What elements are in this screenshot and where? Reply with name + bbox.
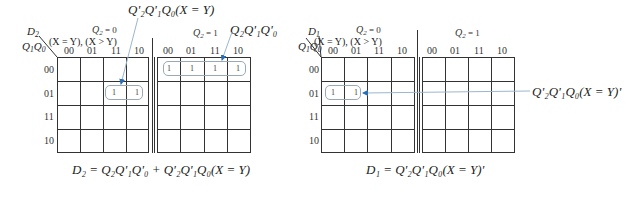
- col-header: 10: [397, 45, 407, 56]
- row-header: 10: [309, 135, 319, 146]
- col-header: 11: [210, 45, 220, 56]
- col-header: 01: [87, 45, 97, 56]
- annotation-q2n-q1n-q0-xeqy-not: Q'₂Q'₁Q₀(X = Y)': [532, 84, 621, 100]
- equation-d2: D₂ = Q₂Q'₁Q'₀ + Q'₂Q'₁Q₀(X = Y): [72, 162, 250, 178]
- col-header: 01: [351, 45, 361, 56]
- col-header: 11: [374, 45, 384, 56]
- row-header: 10: [44, 135, 54, 146]
- section-divider: [419, 57, 420, 153]
- col-header: 01: [186, 45, 196, 56]
- section-divider: [154, 57, 155, 153]
- row-header: 01: [44, 88, 54, 99]
- equation-d1: D₁ = Q'₂Q'₁Q₀(X = Y)': [366, 162, 484, 178]
- col-header: 10: [497, 45, 507, 56]
- col-header: 11: [111, 45, 121, 56]
- inputs-label: (X = Y), (X > Y): [314, 36, 382, 47]
- section1-label: Q2 = 1: [455, 27, 480, 40]
- col-header: 10: [233, 45, 243, 56]
- section0-label: Q2 = 0: [92, 24, 117, 37]
- col-header: 00: [427, 45, 437, 56]
- corner-row-vars-label: Q1Q0: [22, 40, 46, 54]
- row-header: 01: [309, 88, 319, 99]
- corner-output-label: D2: [27, 25, 39, 39]
- col-header: 01: [450, 45, 460, 56]
- annotation-q2n-q1n-q0-xeqy: Q'₂Q'₁Q₀(X = Y): [128, 2, 214, 18]
- group-outline: [163, 61, 246, 76]
- row-header: 00: [309, 64, 319, 75]
- inputs-label: (X = Y), (X > Y): [49, 36, 117, 47]
- col-header: 00: [64, 45, 74, 56]
- group-outline: [105, 85, 143, 100]
- col-header: 11: [474, 45, 484, 56]
- group-outline: [325, 85, 361, 100]
- col-header: 10: [134, 45, 144, 56]
- row-header: 00: [44, 64, 54, 75]
- col-header: 00: [328, 45, 338, 56]
- row-header: 11: [44, 111, 54, 122]
- section1-label: Q2 = 1: [193, 27, 218, 40]
- col-header: 00: [163, 45, 173, 56]
- row-header: 11: [309, 111, 319, 122]
- section-divider: [417, 30, 418, 153]
- annotation-q2-q1n-q0n: Q₂Q'₁Q'₀: [230, 22, 277, 38]
- section-divider: [152, 38, 153, 153]
- section0-label: Q2 = 0: [356, 24, 381, 37]
